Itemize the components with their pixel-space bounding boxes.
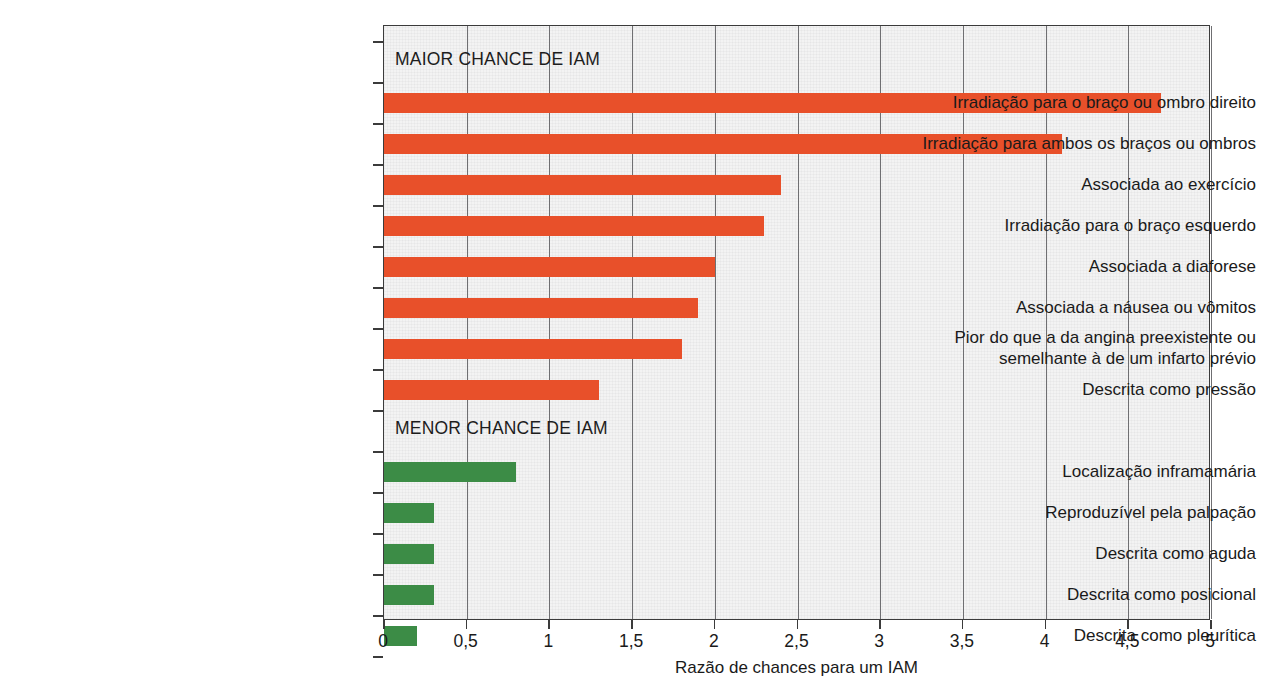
x-axis-tick (1210, 620, 1212, 629)
category-label: Associada ao exercício (890, 174, 1265, 195)
x-axis-tick (548, 620, 550, 629)
bar (384, 216, 764, 236)
category-label: Reproduzível pela palpação (890, 502, 1265, 523)
category-label: Localização inframamária (890, 461, 1265, 482)
y-axis-tick (373, 574, 383, 576)
x-axis-tick (714, 620, 716, 629)
bar (384, 339, 682, 359)
y-axis-tick (373, 164, 383, 166)
x-axis-tick (383, 620, 385, 629)
section-header-label: MAIOR CHANCE DE IAM (395, 49, 600, 70)
x-axis-title: Razão de chances para um IAM (383, 658, 1210, 678)
y-axis-tick (373, 246, 383, 248)
y-axis-tick (373, 410, 383, 412)
category-label: Irradiação para o braço esquerdo (890, 215, 1265, 236)
bar (384, 175, 781, 195)
y-axis-tick (373, 369, 383, 371)
plot-area: MAIOR CHANCE DE IAMMENOR CHANCE DE IAM (383, 25, 1210, 620)
x-axis-tick-label: 0 (348, 631, 418, 652)
y-axis-tick (373, 41, 383, 43)
x-axis-tick-label: 4,5 (1092, 631, 1162, 652)
x-axis-tick (1045, 620, 1047, 629)
y-axis-tick (373, 287, 383, 289)
y-axis-tick (373, 656, 383, 658)
x-axis-tick (879, 620, 881, 629)
x-axis-tick (466, 620, 468, 629)
section-header-row: MENOR CHANCE DE IAM (384, 411, 1209, 452)
category-label: Pior do que a da angina preexistente ou … (890, 327, 1265, 369)
category-label: Descrita como pressão (890, 379, 1265, 400)
x-axis-tick-label: 1,5 (596, 631, 666, 652)
x-axis-tick (797, 620, 799, 629)
category-label: Descrita como aguda (890, 543, 1265, 564)
y-axis-tick (373, 615, 383, 617)
category-label: Descrita como posicional (890, 584, 1265, 605)
category-label: Irradiação para o braço ou ombro direito (890, 92, 1265, 113)
y-axis-tick (373, 451, 383, 453)
y-axis-tick (373, 328, 383, 330)
bar (384, 544, 434, 564)
section-header-row: MAIOR CHANCE DE IAM (384, 42, 1209, 83)
y-axis-tick (373, 492, 383, 494)
x-axis-tick-label: 2 (679, 631, 749, 652)
bar (384, 462, 516, 482)
y-axis-tick (373, 82, 383, 84)
bar (384, 380, 599, 400)
category-label: Irradiação para ambos os braços ou ombro… (890, 133, 1265, 154)
bar (384, 298, 698, 318)
x-axis-tick (962, 620, 964, 629)
section-header-label: MENOR CHANCE DE IAM (395, 418, 608, 439)
category-label: Associada a náusea ou vômitos (890, 297, 1265, 318)
x-axis-tick (631, 620, 633, 629)
bar (384, 503, 434, 523)
x-axis-tick-label: 1 (513, 631, 583, 652)
x-axis-tick-label: 4 (1010, 631, 1080, 652)
bar (384, 257, 715, 277)
x-axis-tick-label: 5 (1175, 631, 1245, 652)
x-axis-tick-label: 3,5 (927, 631, 997, 652)
x-axis-tick-label: 3 (844, 631, 914, 652)
y-axis-tick (373, 533, 383, 535)
x-axis-tick-label: 0,5 (431, 631, 501, 652)
x-axis-tick (1127, 620, 1129, 629)
x-axis-tick-label: 2,5 (762, 631, 832, 652)
gridline (1211, 26, 1212, 619)
odds-ratio-bar-chart-figure: MAIOR CHANCE DE IAMMENOR CHANCE DE IAM I… (0, 0, 1265, 694)
y-axis-tick (373, 123, 383, 125)
y-axis-tick (373, 205, 383, 207)
bar (384, 585, 434, 605)
category-label: Associada a diaforese (890, 256, 1265, 277)
